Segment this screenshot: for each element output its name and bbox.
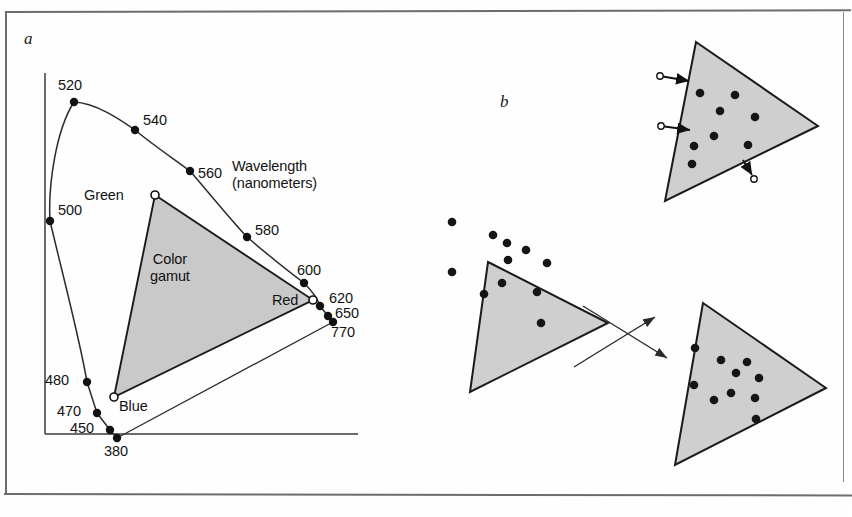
sample-dot-inside <box>690 142 699 151</box>
wavelength-label-620: 620 <box>329 290 353 306</box>
sample-dot-inside <box>731 91 740 100</box>
spectral-point-600 <box>300 279 308 287</box>
primary-vertex-red <box>309 296 317 304</box>
sample-dot-inside <box>688 160 697 169</box>
sample-dot-inside <box>732 369 741 378</box>
wavelength-label-540: 540 <box>143 112 167 128</box>
gamut-triangles <box>470 42 826 465</box>
panel-a-label: a <box>24 29 33 49</box>
sample-dot-inside <box>710 396 719 405</box>
wavelength-label-650: 650 <box>335 305 359 321</box>
sample-dot-inside <box>504 256 513 265</box>
color-gamut-caption: Color gamut <box>150 251 190 284</box>
gamut-caption-line2: gamut <box>150 268 190 285</box>
wavelength-label-450: 450 <box>70 420 94 436</box>
spectral-point-380 <box>113 434 121 442</box>
spectral-point-560 <box>186 167 194 175</box>
wavelength-caption-line1: Wavelength <box>232 158 317 175</box>
wavelength-label-480: 480 <box>45 372 69 388</box>
primary-label-blue: Blue <box>119 398 148 414</box>
gamut-caption-line1: Color <box>150 251 190 268</box>
sample-dot-inside <box>716 107 725 116</box>
sample-dot-inside <box>751 394 760 403</box>
sample-dot-inside <box>533 288 542 297</box>
sample-dot-outside <box>537 319 546 328</box>
spectral-point-470 <box>93 409 101 417</box>
clip-arrow-line <box>660 76 689 81</box>
arrow-to-compressed <box>583 306 667 358</box>
sample-dot-inside <box>498 279 507 288</box>
sample-dot-inside <box>752 415 761 424</box>
sample-dot-inside <box>696 89 705 98</box>
sample-dot-inside <box>744 141 753 150</box>
primary-label-green: Green <box>84 187 124 203</box>
sample-dot-inside <box>503 239 512 248</box>
sample-dot-inside <box>727 389 736 398</box>
clip-arrow-origin-marker <box>658 123 664 129</box>
sample-dot-inside <box>710 132 719 141</box>
panel-b-label: b <box>500 92 509 112</box>
sample-dot-inside <box>755 374 764 383</box>
spectral-point-580 <box>243 233 251 241</box>
sample-dot-inside <box>691 344 700 353</box>
clip-arrow-origin-marker <box>751 176 757 182</box>
spectral-point-620 <box>316 302 324 310</box>
sample-dot-inside <box>751 113 760 122</box>
clipped-gamut-triangle <box>665 42 818 201</box>
primary-label-red: Red <box>272 292 298 308</box>
wavelength-label-470: 470 <box>57 403 81 419</box>
wavelength-axis-caption: Wavelength (nanometers) <box>232 158 317 191</box>
wavelength-label-600: 600 <box>297 262 321 278</box>
wavelength-label-580: 580 <box>255 222 279 238</box>
wavelength-label-770: 770 <box>331 324 355 340</box>
spectral-point-540 <box>131 126 139 134</box>
source-gamut-triangle <box>470 262 608 392</box>
sample-dot-inside <box>543 259 552 268</box>
wavelength-label-500: 500 <box>58 202 82 218</box>
spectral-point-500 <box>46 217 54 225</box>
wavelength-label-380: 380 <box>104 443 128 459</box>
sample-dot-inside <box>480 290 489 299</box>
panel-a-group <box>45 73 358 442</box>
sample-dot-inside <box>522 246 531 255</box>
sample-dot-inside <box>717 356 726 365</box>
primary-vertex-green <box>151 191 159 199</box>
sample-dot-outside <box>448 218 457 227</box>
clip-arrow-origin-marker <box>657 73 663 79</box>
sample-dot-inside <box>743 358 752 367</box>
sample-dot-outside <box>448 268 457 277</box>
spectral-point-480 <box>83 378 91 386</box>
sample-dot-inside <box>690 381 699 390</box>
wavelength-caption-line2: (nanometers) <box>232 175 317 192</box>
spectral-point-520 <box>70 98 78 106</box>
sample-dot-inside <box>489 231 498 240</box>
wavelength-label-560: 560 <box>198 165 222 181</box>
primary-vertex-blue <box>110 393 118 401</box>
spectral-point-450 <box>106 426 114 434</box>
clip-arrow-line <box>743 160 752 175</box>
wavelength-label-520: 520 <box>58 77 82 93</box>
